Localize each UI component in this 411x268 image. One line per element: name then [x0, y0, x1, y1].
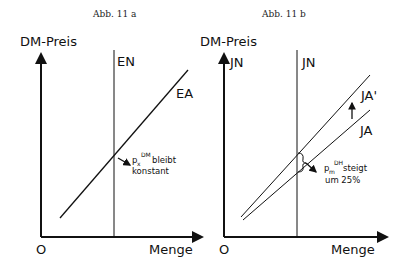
figure-b-caption: Abb. 11 b [261, 9, 306, 19]
figure-a-origin: O [36, 242, 46, 257]
figure-a: Abb. 11 a DM-Preis EN EA p x DM bleibt k… [20, 9, 202, 257]
figure-a-ea-line [60, 70, 188, 218]
annotation-line2: um 25% [325, 175, 360, 185]
figure-b-jn-label: JN [301, 55, 316, 70]
figure-a-annotation: p x DM bleibt konstant [132, 151, 177, 176]
figure-b-ja-label: JA [359, 123, 373, 138]
figure-b-origin: O [219, 242, 229, 257]
figure-a-y-axis-label: DM-Preis [20, 34, 77, 49]
figure-a-annotation-arrow [118, 158, 130, 165]
annotation-line2: konstant [132, 166, 170, 176]
figure-b: Abb. 11 b DM-Preis JN JN JA' JA p m DH s… [200, 9, 387, 257]
figure-a-x-axis-label: Menge [149, 242, 193, 257]
figure-b-ja-prime-label: JA' [360, 88, 377, 103]
annotation-line1: steigt [343, 163, 368, 173]
figure-b-annotation-arrow [306, 163, 316, 172]
figure-a-caption: Abb. 11 a [92, 9, 137, 19]
figure-b-axis-jn-label: JN [229, 55, 244, 70]
figure-a-en-label: EN [117, 54, 135, 69]
price-superscript: DM [141, 151, 151, 158]
figure-b-y-axis-label: DM-Preis [200, 34, 257, 49]
diagram-canvas: Abb. 11 a DM-Preis EN EA p x DM bleibt k… [0, 0, 411, 268]
figure-a-ea-label: EA [176, 86, 193, 101]
figure-b-x-axis-label: Menge [331, 242, 375, 257]
price-superscript: DH [334, 159, 343, 166]
figure-b-annotation: p m DH steigt um 25% [324, 159, 368, 185]
price-subscript: m [329, 168, 335, 175]
figure-b-ja-prime-line [241, 75, 370, 217]
annotation-line1: bleibt [152, 155, 177, 165]
